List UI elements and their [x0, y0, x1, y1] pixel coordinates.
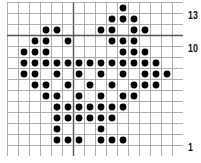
stitch-dot [43, 27, 50, 34]
stitch-dot [43, 38, 50, 45]
row-number-label: 13 [188, 10, 198, 21]
stitch-dot [54, 115, 61, 122]
stitch-dot [142, 27, 149, 34]
stitch-dot [109, 104, 116, 111]
stitch-dot [109, 82, 116, 89]
stitch-dot [153, 82, 160, 89]
stitch-dot [65, 104, 72, 111]
stitch-dot [54, 104, 61, 111]
stitch-dot [21, 71, 28, 78]
stitch-dot [87, 82, 94, 89]
stitch-dot [164, 71, 171, 78]
stitch-dot [120, 93, 127, 100]
stitch-dot [65, 137, 72, 144]
stitch-dot [76, 71, 83, 78]
stitch-dot [131, 38, 138, 45]
stitch-dot [98, 137, 105, 144]
stitch-dot [142, 71, 149, 78]
stitch-dot [54, 137, 61, 144]
stitch-dot [142, 60, 149, 67]
stitch-dot [120, 16, 127, 23]
stitch-dot [21, 49, 28, 56]
stitch-dot [98, 27, 105, 34]
stitch-dot [32, 71, 39, 78]
stitch-dot [153, 60, 160, 67]
stitch-dot [65, 115, 72, 122]
stitch-dot [54, 71, 61, 78]
stitch-dot [87, 60, 94, 67]
stitch-dot [109, 137, 116, 144]
stitch-dot [131, 16, 138, 23]
stitch-dot [131, 93, 138, 100]
stitch-dot [98, 115, 105, 122]
stitch-dot [109, 27, 116, 34]
stitch-dot [131, 82, 138, 89]
stitch-dot [109, 38, 116, 45]
stitch-dot [32, 38, 39, 45]
stitch-dot [87, 115, 94, 122]
stitch-dot [65, 60, 72, 67]
stitch-dot [76, 60, 83, 67]
row-number-label: 10 [188, 43, 198, 54]
stitch-dot [98, 71, 105, 78]
stitch-dot [131, 49, 138, 56]
stitch-dot [43, 60, 50, 67]
stitch-dot [120, 38, 127, 45]
stitch-dot [76, 115, 83, 122]
stitch-dot [120, 49, 127, 56]
stitch-dot [43, 49, 50, 56]
stitch-dot [32, 49, 39, 56]
stitch-dot [21, 60, 28, 67]
stitch-dot [32, 82, 39, 89]
stitch-dot [65, 38, 72, 45]
stitch-chart [7, 2, 183, 156]
stitch-dot [76, 104, 83, 111]
stitch-dot [98, 93, 105, 100]
stitch-dot [76, 137, 83, 144]
stitch-dot [131, 60, 138, 67]
stitch-dot [142, 82, 149, 89]
stitch-dot [120, 5, 127, 12]
stitch-dot [109, 16, 116, 23]
stitch-dot [43, 93, 50, 100]
stitch-dot [43, 82, 50, 89]
stitch-dot [32, 60, 39, 67]
stitch-dot [120, 60, 127, 67]
chart-grid [7, 2, 183, 156]
row-number-label: 1 [188, 142, 193, 153]
stitch-dot [98, 60, 105, 67]
stitch-dot [65, 82, 72, 89]
stitch-dot [54, 60, 61, 67]
stitch-dot [120, 137, 127, 144]
stitch-dot [76, 93, 83, 100]
stitch-dot [54, 27, 61, 34]
stitch-dot [109, 115, 116, 122]
stitch-dot [120, 104, 127, 111]
stitch-dot [54, 126, 61, 133]
stitch-dot [153, 71, 160, 78]
stitch-dot [109, 60, 116, 67]
stitch-dot [142, 49, 149, 56]
stitch-dot [131, 27, 138, 34]
stitch-dot [98, 126, 105, 133]
stitch-dot [98, 104, 105, 111]
stitch-dot [87, 104, 94, 111]
stitch-dot [120, 71, 127, 78]
stitch-dot [54, 93, 61, 100]
